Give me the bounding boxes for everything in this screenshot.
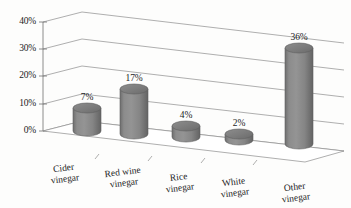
bar-top-other-vinegar — [285, 43, 313, 53]
value-label-other-vinegar: 36% — [281, 32, 317, 42]
chart-container: 40% 30% 20% 10% 0% 7% 17% 4% 2% 36% Cide… — [0, 0, 351, 208]
y-tick-label-30: 30% — [4, 43, 36, 53]
bar-rice-vinegar[interactable] — [172, 121, 200, 142]
bar-top-white-vinegar — [225, 129, 253, 139]
floor-tick-2 — [148, 156, 152, 161]
bar-other-vinegar[interactable] — [285, 43, 313, 149]
value-label-rice-vinegar: 4% — [168, 110, 204, 120]
value-label-white-vinegar: 2% — [221, 118, 257, 128]
y-tick-label-10: 10% — [4, 98, 36, 108]
floor-tick-4 — [253, 160, 257, 165]
y-axis — [39, 22, 47, 131]
bar-red-wine-vinegar[interactable] — [120, 84, 148, 139]
bar-top-rice-vinegar — [172, 121, 200, 131]
y-tick-label-20: 20% — [4, 70, 36, 80]
bar-body-other-vinegar — [285, 48, 313, 149]
value-label-cider-vinegar: 7% — [69, 92, 105, 102]
bar-top-red-wine-vinegar — [120, 84, 148, 94]
y-tick-label-40: 40% — [4, 16, 36, 26]
bar-cider-vinegar[interactable] — [73, 103, 101, 136]
bar-white-vinegar[interactable] — [225, 129, 253, 145]
value-label-red-wine-vinegar: 17% — [116, 73, 152, 83]
floor-tick-1 — [95, 154, 99, 159]
y-tick-label-0: 0% — [4, 125, 36, 135]
floor-tick-3 — [201, 158, 205, 163]
bar-top-cider-vinegar — [73, 103, 101, 113]
bar-body-red-wine-vinegar — [120, 89, 148, 139]
